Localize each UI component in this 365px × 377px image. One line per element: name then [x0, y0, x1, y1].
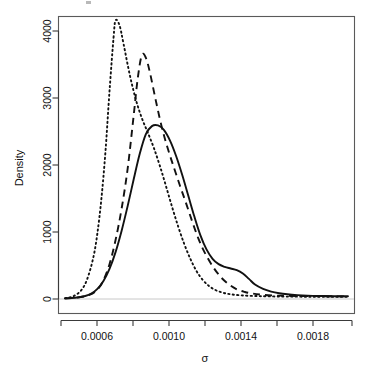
x-tick-label-0.0018: 0.0018: [297, 330, 329, 342]
scan-artifact-speck: [86, 1, 91, 4]
y-tick-label-1000: 1000: [41, 220, 53, 244]
x-tick-label-0.0010: 0.0010: [153, 330, 185, 342]
x-tick-label-0.0006: 0.0006: [81, 330, 113, 342]
x-axis-title: σ: [202, 352, 209, 364]
y-tick-label-3000: 3000: [41, 86, 53, 110]
plot-canvas: 0 1000 2000 3000 4000 Density 0.0006 0.0…: [0, 0, 365, 377]
x-tick-label-0.0014: 0.0014: [225, 330, 257, 342]
y-axis-title: Density: [13, 149, 25, 186]
y-tick-label-0: 0: [41, 296, 53, 302]
density-plot-figure: 0 1000 2000 3000 4000 Density 0.0006 0.0…: [0, 0, 365, 377]
y-tick-label-4000: 4000: [41, 19, 53, 43]
y-tick-label-2000: 2000: [41, 153, 53, 177]
